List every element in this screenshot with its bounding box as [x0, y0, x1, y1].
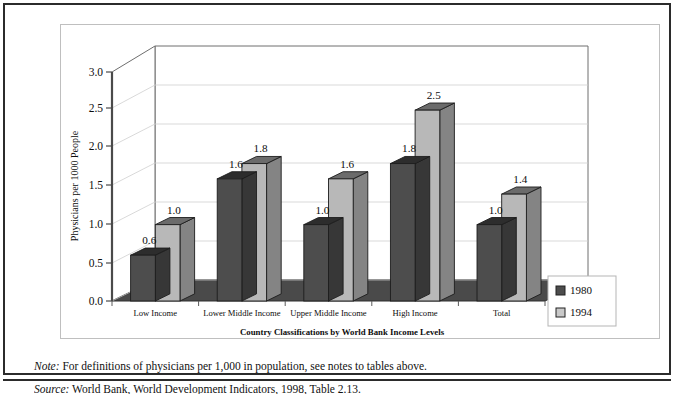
value-label-1994-lower-middle-income: 1.8 [254, 142, 268, 154]
bar-1980-lower-middle-income [217, 172, 256, 301]
source-label: Source: [34, 383, 69, 394]
y-tick-label: 1.0 [89, 218, 104, 230]
y-tick-label: 0.5 [89, 257, 104, 269]
legend-swatch-1994 [556, 308, 565, 317]
y-tick-label: 0.0 [89, 295, 104, 307]
value-label-1994-low-income: 1.0 [167, 204, 181, 216]
y-tick-label: 2.5 [89, 102, 104, 114]
category-ticks [112, 301, 545, 306]
bar-1980-upper-middle-income [304, 218, 343, 301]
value-label-1994-total: 1.4 [513, 173, 527, 185]
value-label-1994-upper-middle-income: 1.6 [340, 158, 354, 170]
bar-1980-high-income [390, 156, 429, 301]
value-label-1980-total: 1.0 [489, 204, 503, 216]
category-label-lower-middle-income: Lower Middle Income [203, 308, 281, 318]
y-axis-tick-labels: 0.0 0.5 1.0 1.5 2.0 2.5 3.0 [89, 66, 104, 307]
value-label-1994-high-income: 2.5 [427, 89, 441, 101]
legend-label-1994: 1994 [570, 306, 593, 318]
note-label: Note: [34, 360, 60, 372]
figure-source: Source: World Bank, World Development In… [34, 383, 654, 394]
category-label-upper-middle-income: Upper Middle Income [290, 308, 367, 318]
figure-note: Note: For definitions of physicians per … [34, 360, 644, 372]
legend-item-1980[interactable]: 1980 [556, 284, 593, 296]
legend-item-1994[interactable]: 1994 [556, 306, 593, 318]
y-tick-label: 1.5 [89, 179, 104, 191]
chart-legend: 1980 1994 [548, 276, 616, 326]
value-label-1980-high-income: 1.8 [402, 142, 416, 154]
category-label-high-income: High Income [393, 308, 438, 318]
bottom-divider [3, 379, 671, 381]
source-text: World Bank, World Development Indicators… [69, 383, 361, 394]
category-label-total: Total [493, 308, 511, 318]
x-axis-title: Country Classifications by World Bank In… [240, 327, 445, 337]
value-label-1980-upper-middle-income: 1.0 [315, 204, 329, 216]
note-text: For definitions of physicians per 1,000 … [60, 360, 427, 372]
bar-chart: 0.0 0.5 1.0 1.5 2.0 2.5 3.0 Physicians p… [60, 24, 660, 339]
value-label-1980-low-income: 0.6 [142, 234, 156, 246]
y-tick-label: 3.0 [89, 66, 104, 78]
category-labels: Low IncomeLower Middle IncomeUpper Middl… [133, 308, 511, 318]
legend-label-1980: 1980 [570, 284, 593, 296]
legend-swatch-1980 [556, 286, 565, 295]
category-label-low-income: Low Income [133, 308, 177, 318]
bar-1980-total [477, 218, 516, 301]
bar-1980-low-income [131, 248, 170, 301]
y-axis-title: Physicians per 1000 People [69, 130, 80, 241]
value-label-1980-lower-middle-income: 1.6 [229, 158, 243, 170]
y-tick-label: 2.0 [89, 140, 104, 152]
